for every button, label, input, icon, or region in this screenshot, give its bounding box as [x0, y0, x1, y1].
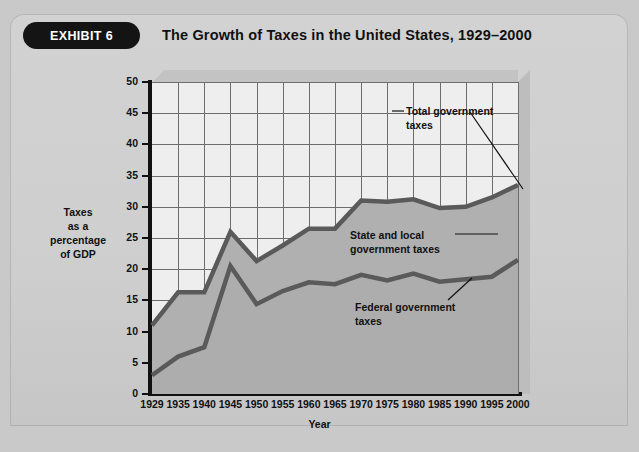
y-axis-title-line-4: of GDP — [30, 247, 126, 261]
exhibit-badge-label: EXHIBIT 6 — [50, 29, 113, 43]
plot-right-face — [518, 70, 530, 394]
exhibit-badge: EXHIBIT 6 — [23, 22, 140, 49]
gridline-vertical — [230, 82, 231, 394]
y-tick-label: 45 — [110, 106, 138, 118]
y-tick-mark — [142, 206, 148, 208]
gridline-vertical — [335, 82, 336, 394]
y-tick-label: 25 — [110, 231, 138, 243]
y-tick-label: 30 — [110, 200, 138, 212]
y-tick-label: 15 — [110, 293, 138, 305]
exhibit-title: The Growth of Taxes in the United States… — [162, 27, 532, 43]
y-tick-label: 10 — [110, 325, 138, 337]
y-tick-mark — [142, 299, 148, 301]
x-tick-label: 2000 — [495, 398, 541, 410]
y-tick-mark — [142, 331, 148, 333]
y-tick-mark — [142, 81, 148, 83]
y-tick-mark — [142, 362, 148, 364]
y-tick-label: 5 — [110, 356, 138, 368]
y-tick-mark — [142, 237, 148, 239]
annotation-total-government-taxes: Total government taxes — [406, 104, 493, 132]
x-axis-title: Year — [0, 418, 639, 430]
exhibit-screenshot: EXHIBIT 6 The Growth of Taxes in the Uni… — [0, 0, 639, 452]
y-tick-mark — [142, 268, 148, 270]
gridline-vertical — [283, 82, 284, 394]
gridline-vertical — [178, 82, 179, 394]
y-tick-mark — [142, 112, 148, 114]
y-tick-label: 35 — [110, 169, 138, 181]
y-tick-label: 40 — [110, 137, 138, 149]
gridline-vertical — [309, 82, 310, 394]
y-tick-mark — [142, 143, 148, 145]
gridline-vertical — [204, 82, 205, 394]
y-tick-mark — [142, 175, 148, 177]
annotation-state-and-local-government-taxes: State and local government taxes — [350, 228, 440, 256]
y-tick-label: 50 — [110, 75, 138, 87]
exhibit-header: EXHIBIT 6 The Growth of Taxes in the Uni… — [10, 14, 628, 56]
annotation-federal-government-taxes: Federal government taxes — [355, 300, 455, 328]
gridline-vertical — [257, 82, 258, 394]
plot-right-border — [518, 82, 519, 394]
y-tick-mark — [142, 393, 148, 395]
y-tick-label: 20 — [110, 262, 138, 274]
